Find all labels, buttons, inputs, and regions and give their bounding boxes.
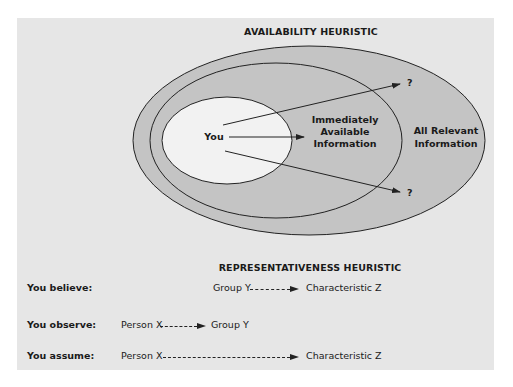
row-label-observe: You observe: <box>27 319 96 330</box>
believe-dashed-line <box>250 289 290 290</box>
observe-dashed-line <box>160 326 197 327</box>
row-label-assume: You assume: <box>27 350 94 361</box>
observe-arrowhead-icon <box>197 323 206 329</box>
believe-to: Characteristic Z <box>306 282 382 293</box>
assume-from: Person X <box>121 350 162 361</box>
representativeness-heuristic-title: REPRESENTATIVENESS HEURISTIC <box>219 262 402 273</box>
believe-arrowhead-icon <box>290 286 299 292</box>
inner-label-line-2: Available <box>320 126 369 137</box>
assume-dashed-line <box>163 357 290 358</box>
outer-label-line-2: Information <box>414 138 477 149</box>
outer-label-line-1: All Relevant <box>414 125 479 136</box>
believe-from: Group Y <box>213 282 251 293</box>
observe-from: Person X <box>121 319 162 330</box>
assume-to: Characteristic Z <box>306 350 382 361</box>
assume-arrowhead-icon <box>290 354 299 360</box>
inner-label-line-1: Immediately <box>312 114 379 125</box>
inner-label-line-3: Information <box>313 138 376 149</box>
unknown-bottom: ? <box>407 187 413 198</box>
you-ellipse <box>162 97 292 184</box>
you-label: You <box>204 131 223 142</box>
row-label-believe: You believe: <box>27 282 92 293</box>
availability-heuristic-title: AVAILABILITY HEURISTIC <box>244 26 378 37</box>
unknown-top: ? <box>407 77 413 88</box>
observe-to: Group Y <box>211 319 249 330</box>
